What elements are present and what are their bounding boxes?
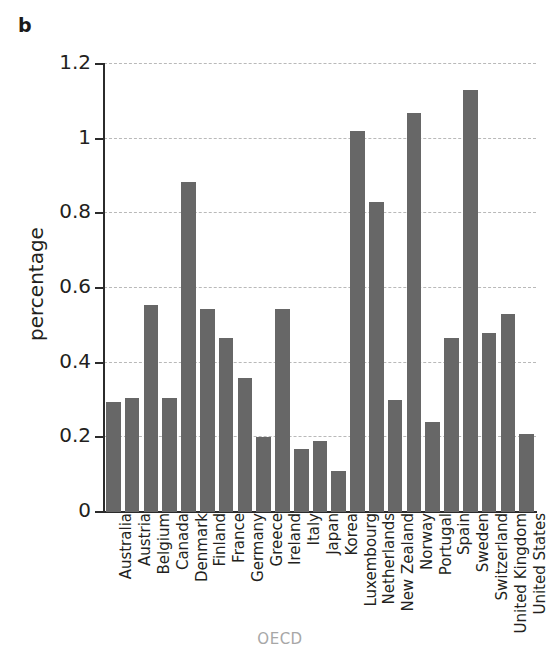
x-axis-tick-label: Spain [457,513,472,555]
bar [313,441,328,512]
bar [162,398,177,512]
y-axis-tick-label: 1.2 [11,52,91,72]
bar [407,113,422,512]
x-axis-tick-label: Switzerland [495,513,510,601]
bar [425,422,440,512]
y-axis-tick-mark [95,511,104,513]
y-axis-tick-mark [95,287,104,289]
bar [463,90,478,512]
bar [331,471,346,512]
bar [181,182,196,512]
x-axis-title: OECD [0,630,560,648]
bar [444,338,459,512]
y-axis-tick-mark [95,212,104,214]
bar [519,434,534,512]
y-axis-tick-label: 1 [11,127,91,147]
bar [482,333,497,512]
x-axis-tick-label: New Zealand [401,513,416,612]
y-axis-tick-mark [95,436,104,438]
x-axis-tick-label: Greece [270,513,285,566]
y-axis-tick-label: 0.6 [11,276,91,296]
bar [350,131,365,512]
bar [369,202,384,512]
x-axis-tick-labels: AustraliaAustriaBelgiumCanadaDenmarkFinl… [104,513,536,623]
bar-series [104,63,536,512]
x-axis-tick-label: United Kingdom [514,513,529,633]
y-axis-tick-labels: 00.20.40.60.811.2 [5,0,91,663]
y-axis-tick-label: 0.4 [11,351,91,371]
x-axis-tick-label: Luxembourg [364,513,379,607]
x-axis-tick-label: Korea [345,513,360,556]
x-axis-tick-label: Belgium [157,513,172,575]
x-axis-tick-label: Germany [251,513,266,582]
bar [256,437,271,512]
y-axis-tick-mark [95,138,104,140]
x-axis-tick-label: Canada [176,513,191,570]
x-axis-tick-label: France [232,513,247,563]
bar [219,338,234,512]
x-axis-tick-label: Japan [326,513,341,555]
x-axis-tick-label: Ireland [288,513,303,565]
x-axis-tick-label: Portugal [439,513,454,575]
bar-chart-figure: b percentage 00.20.40.60.811.2 Australia… [0,0,560,663]
bar [106,402,121,512]
y-axis-tick-label: 0.8 [11,201,91,221]
x-axis-tick-label: Norway [420,513,435,570]
x-axis-tick-label: Denmark [195,513,210,582]
x-axis-tick-label: Sweden [476,513,491,572]
x-axis-tick-label: United States [533,513,548,615]
bar [388,400,403,512]
bar [294,449,309,512]
x-axis-tick-label: Netherlands [382,513,397,604]
bar [238,378,253,512]
x-axis-tick-label: Italy [307,513,322,546]
y-axis-tick-label: 0 [11,500,91,520]
bar [275,309,290,512]
bar [125,398,140,512]
x-axis-tick-label: Austria [138,513,153,566]
bar [144,305,159,512]
bar [200,309,215,512]
x-axis-tick-label: Australia [119,513,134,579]
y-axis-tick-mark [95,362,104,364]
y-axis-tick-label: 0.2 [11,425,91,445]
x-axis-tick-label: Finland [213,513,228,567]
y-axis-tick-mark [95,63,104,65]
bar [501,314,516,512]
